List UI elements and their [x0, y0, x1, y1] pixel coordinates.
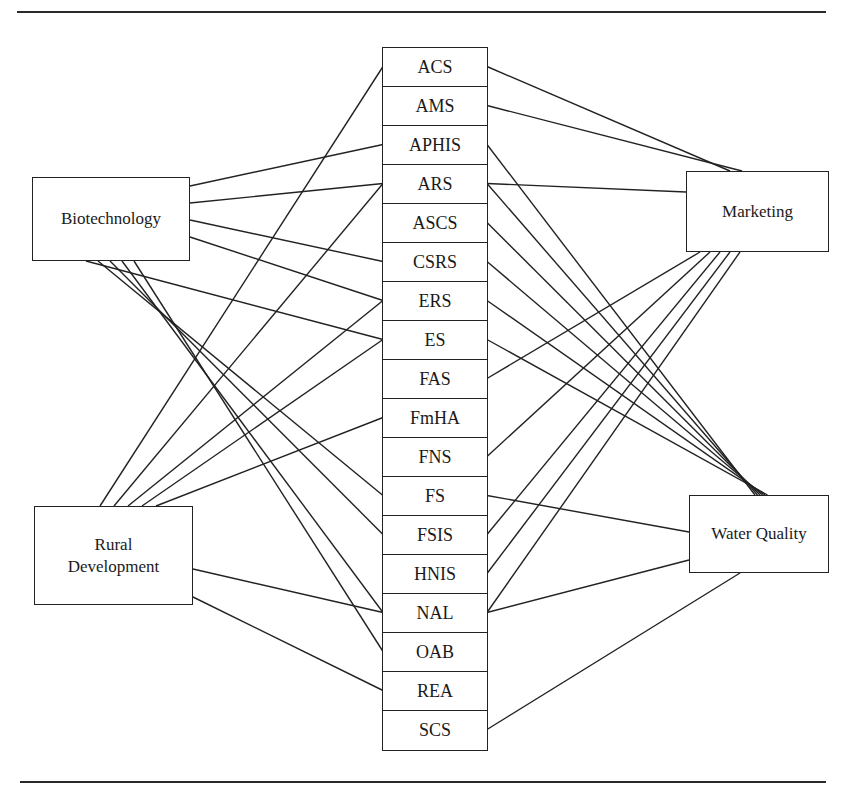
agency-nal: NAL [383, 594, 487, 633]
topic-rural-development: Rural Development [34, 506, 193, 605]
link-rural-development-es [142, 340, 383, 507]
link-marketing-fsis [487, 252, 720, 535]
agency-acs: ACS [383, 48, 487, 87]
link-water-quality-nal [487, 560, 689, 613]
link-biotechnology-ers [190, 237, 383, 301]
agency-fmha: FmHA [383, 399, 487, 438]
link-marketing-ams [487, 106, 742, 172]
agency-label: ARS [417, 174, 452, 195]
agency-fns: FNS [383, 438, 487, 477]
agency-label: AMS [415, 96, 454, 117]
agency-label: FmHA [410, 408, 460, 429]
agency-label: ERS [418, 291, 451, 312]
link-biotechnology-csrs [190, 220, 383, 262]
agency-label: SCS [419, 720, 451, 741]
agency-label: CSRS [413, 252, 457, 273]
topic-label: Biotechnology [61, 208, 161, 230]
agency-column: ACS AMS APHIS ARS ASCS CSRS ERS ES FAS F… [382, 47, 488, 751]
link-water-quality-fs [487, 496, 689, 533]
topic-label: Water Quality [711, 523, 806, 545]
agency-aphis: APHIS [383, 126, 487, 165]
agency-label: APHIS [409, 135, 461, 156]
agency-oab: OAB [383, 633, 487, 672]
agency-label: ASCS [412, 213, 457, 234]
agency-es: ES [383, 321, 487, 360]
agency-label: FS [425, 486, 445, 507]
agency-label: NAL [417, 603, 454, 624]
link-water-quality-ascs [487, 223, 760, 496]
link-marketing-ars [487, 184, 686, 193]
agency-ars: ARS [383, 165, 487, 204]
link-biotechnology-ars [190, 184, 383, 204]
link-rural-development-nal [193, 569, 383, 613]
link-biotechnology-fsis [110, 261, 383, 535]
link-water-quality-scs [487, 573, 740, 730]
agency-csrs: CSRS [383, 243, 487, 282]
topic-marketing: Marketing [686, 171, 829, 252]
topic-label: Marketing [722, 201, 793, 223]
agency-ascs: ASCS [383, 204, 487, 243]
agency-label: FAS [419, 369, 451, 390]
link-rural-development-fmha [156, 418, 383, 507]
agency-label: HNIS [414, 564, 456, 585]
agency-label: REA [417, 681, 453, 702]
agency-hnis: HNIS [383, 555, 487, 594]
agency-rea: REA [383, 672, 487, 711]
link-marketing-acs [487, 67, 730, 172]
agency-fs: FS [383, 477, 487, 516]
agency-label: FSIS [417, 525, 453, 546]
agency-scs: SCS [383, 711, 487, 750]
link-biotechnology-fs [98, 261, 383, 496]
agency-fsis: FSIS [383, 516, 487, 555]
agency-label: OAB [416, 642, 454, 663]
agency-ams: AMS [383, 87, 487, 126]
agency-label: FNS [418, 447, 451, 468]
agency-ers: ERS [383, 282, 487, 321]
agency-label: ACS [417, 57, 452, 78]
agency-label: ES [424, 330, 445, 351]
topic-label: Rural Development [68, 534, 160, 578]
link-rural-development-rea [193, 597, 383, 691]
topic-biotechnology: Biotechnology [32, 177, 190, 261]
topic-water-quality: Water Quality [689, 495, 829, 573]
agency-fas: FAS [383, 360, 487, 399]
link-biotechnology-aphis [190, 145, 383, 187]
